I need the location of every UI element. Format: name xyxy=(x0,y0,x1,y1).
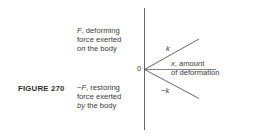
k-label: k xyxy=(166,44,170,53)
origin-label: 0 xyxy=(137,64,141,73)
negative-k-label: −k xyxy=(161,86,169,95)
restoring-force-label: −F, restoring force exerted by the body xyxy=(77,83,121,111)
figure-label: FIGURE 270 xyxy=(18,84,65,93)
deforming-force-label: F, deforming force exerted on the body xyxy=(77,26,121,54)
deformation-axis-label: x, amount of deformation xyxy=(171,59,220,77)
